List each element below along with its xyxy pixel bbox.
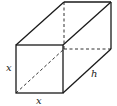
label-front-width: x — [36, 95, 42, 106]
front-face — [16, 45, 63, 93]
edge-top-right-depth — [63, 2, 111, 45]
edge-top-left-depth — [16, 2, 64, 45]
visible-edges — [16, 2, 111, 93]
label-front-height: x — [6, 62, 12, 73]
hidden-edge-diagonal — [16, 49, 64, 93]
prism-diagram: x x h — [0, 0, 117, 106]
label-depth: h — [91, 68, 97, 79]
edge-bottom-right-depth — [63, 49, 111, 93]
